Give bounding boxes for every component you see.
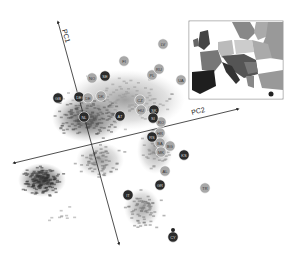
svg-text:KS: KS xyxy=(181,153,187,158)
population-mean-at: AT xyxy=(115,111,125,121)
svg-text:DE: DE xyxy=(85,96,91,101)
population-mean-no: NO xyxy=(87,73,97,83)
population-mean-se: SE xyxy=(100,71,110,81)
svg-text:LV: LV xyxy=(161,42,166,47)
population-mean-bg: BG xyxy=(165,141,175,151)
svg-text:DK: DK xyxy=(98,94,104,99)
population-mean-ua: UA xyxy=(176,75,186,85)
svg-text:AL: AL xyxy=(163,169,169,174)
svg-text:SE: SE xyxy=(102,74,108,79)
svg-text:RU: RU xyxy=(156,67,162,72)
svg-text:MK: MK xyxy=(158,150,164,155)
population-mean-cz: CZ xyxy=(135,95,145,105)
population-mean-ks: KS xyxy=(179,150,189,160)
svg-text:AT: AT xyxy=(118,114,123,119)
population-mean-rs: RS xyxy=(147,132,157,142)
pc2-axis-label: PC2 xyxy=(191,106,206,116)
svg-text:GR: GR xyxy=(157,183,163,188)
population-mean-hu: HU xyxy=(136,105,146,115)
svg-text:GB: GB xyxy=(55,96,61,101)
svg-text:HR: HR xyxy=(157,131,163,136)
svg-text:TR: TR xyxy=(202,186,207,191)
population-mean-it: IT xyxy=(123,190,133,200)
population-mean-si: SI xyxy=(148,113,158,123)
svg-text:NO: NO xyxy=(89,76,95,81)
svg-text:SK: SK xyxy=(151,108,157,113)
svg-text:RS: RS xyxy=(149,135,155,140)
svg-text:IT: IT xyxy=(126,193,130,198)
svg-text:RO: RO xyxy=(158,120,164,125)
population-mean-al: AL xyxy=(160,166,170,176)
population-mean-lv: LV xyxy=(158,39,168,49)
svg-text:FI: FI xyxy=(122,59,126,64)
population-mean-cy: CY xyxy=(168,232,178,242)
population-mean-gb: GB xyxy=(53,93,63,103)
pc1-axis-label: PC1 xyxy=(61,28,72,43)
svg-text:CZ: CZ xyxy=(137,98,143,103)
svg-text:NL: NL xyxy=(81,115,87,120)
population-mean-gr: GR xyxy=(155,180,165,190)
svg-text:PL: PL xyxy=(150,73,156,78)
population-mean-tr: TR xyxy=(200,183,210,193)
svg-text:DE: DE xyxy=(76,95,82,100)
population-mean-mk: MK xyxy=(156,147,166,157)
inset-map xyxy=(189,21,283,99)
svg-text:CY: CY xyxy=(170,235,176,240)
population-mean-ru: RU xyxy=(154,64,164,74)
svg-text:BG: BG xyxy=(167,144,173,149)
svg-text:HU: HU xyxy=(138,108,144,113)
pca-scatter-plot: PC1 PC2 FILVPLRUUANOSEDKGBDEDENLATCZHUSK… xyxy=(0,0,291,257)
population-mean-dk: DK xyxy=(96,91,106,101)
population-mean-de: DE xyxy=(83,93,93,103)
svg-text:SI: SI xyxy=(151,116,155,121)
population-mean-nl: NL xyxy=(79,112,89,122)
svg-text:UA: UA xyxy=(178,78,184,83)
svg-text:BA: BA xyxy=(157,141,163,146)
population-mean-fi: FI xyxy=(119,56,129,66)
